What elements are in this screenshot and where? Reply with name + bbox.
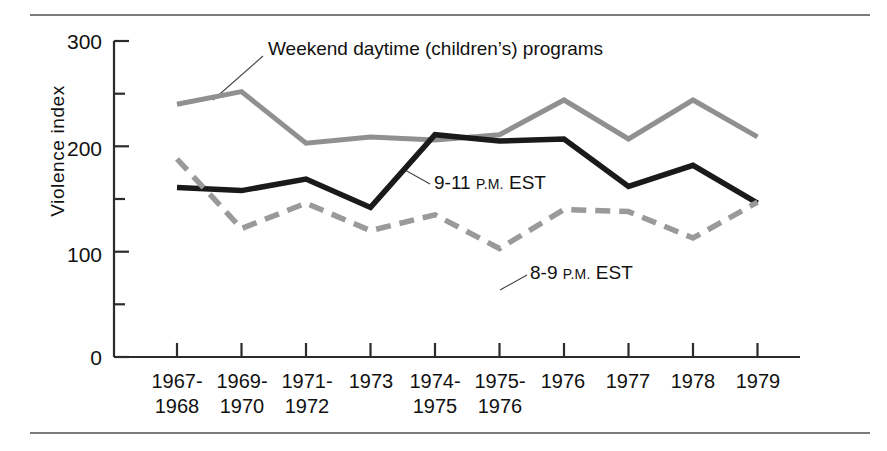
leader-line-9-11: [405, 170, 430, 184]
figure-container: Violence index 300 200 100 0 1967- 1968 …: [0, 0, 887, 451]
series-layer: [177, 92, 758, 249]
x-axis-ticks: [177, 343, 758, 357]
annotation-leader-lines: [213, 56, 527, 290]
leader-line-8-9: [500, 275, 527, 290]
series-line-1: [177, 135, 758, 208]
chart-plot: [0, 0, 887, 451]
y-axis-ticks: [114, 41, 129, 357]
